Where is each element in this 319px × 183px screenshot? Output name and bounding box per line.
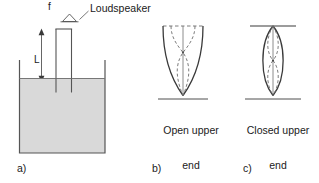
loudspeaker-leader-line bbox=[80, 11, 89, 20]
dashed-mode-upper-right bbox=[273, 26, 278, 61]
frequency-label: f bbox=[48, 1, 51, 12]
liquid-container bbox=[20, 60, 106, 153]
panel-index-b: b) bbox=[152, 163, 161, 175]
panel-c-caption-line2: end bbox=[228, 160, 319, 172]
panel-a-drawing bbox=[20, 11, 106, 153]
loudspeaker-icon bbox=[61, 14, 79, 22]
panel-c-caption: Closed upper end bbox=[228, 101, 319, 183]
panel-b-drawing bbox=[158, 26, 208, 99]
mode-envelope-right bbox=[273, 26, 283, 96]
dashed-mode-lower-right bbox=[273, 61, 278, 96]
figure-container: f Loudspeaker L a) Open upper end b) Clo… bbox=[0, 0, 319, 183]
frequency-leader-line bbox=[53, 12, 61, 20]
panel-c-caption-line1: Closed upper bbox=[228, 125, 319, 137]
loudspeaker-label: Loudspeaker bbox=[90, 3, 151, 15]
panel-index-c: c) bbox=[243, 163, 252, 175]
node-marker bbox=[272, 60, 274, 62]
panel-index-a: a) bbox=[17, 163, 26, 175]
panel-c-drawing bbox=[245, 26, 301, 99]
dashed-mode-lower-left bbox=[268, 61, 273, 96]
length-label: L bbox=[34, 54, 40, 65]
mode-envelope-left bbox=[263, 26, 273, 96]
panel-b-caption-line1: Open upper bbox=[141, 125, 241, 137]
dashed-mode-upper-left bbox=[268, 26, 273, 61]
node-marker bbox=[182, 52, 184, 54]
